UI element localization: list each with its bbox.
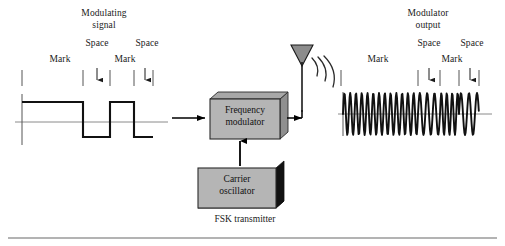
transmit-antenna — [291, 45, 334, 112]
modulating-signal-title-line1: Modulating — [81, 8, 126, 19]
left-label-space-2: Space — [135, 38, 158, 49]
carrier-oscillator-label-line1: Carrier — [224, 174, 251, 186]
modulating-square-wave — [22, 102, 153, 137]
left-space-arrows — [97, 68, 145, 80]
left-label-space-1: Space — [85, 38, 108, 49]
left-label-mark-1: Mark — [50, 54, 71, 65]
modulating-signal-title-line2: signal — [92, 20, 115, 31]
right-label-mark-1: Mark — [368, 54, 389, 65]
figure-caption: FSK transmitter — [215, 214, 276, 224]
modulator-output-title-line2: output — [416, 20, 441, 31]
left-waveform-group — [15, 68, 168, 145]
right-tick-marks — [341, 70, 479, 86]
frequency-modulator-label-line2: modulator — [225, 117, 264, 129]
right-label-space-1: Space — [417, 38, 440, 49]
right-waveform-group — [338, 68, 492, 136]
fm-block-right-face — [280, 92, 288, 139]
modulator-output-title-line1: Modulator — [407, 8, 448, 19]
carrier-oscillator-label-line2: oscillator — [219, 186, 254, 198]
left-label-mark-2: Mark — [115, 54, 136, 65]
fm-block-top-face — [210, 92, 288, 99]
right-label-mark-2: Mark — [442, 54, 463, 65]
right-label-space-2: Space — [460, 38, 483, 49]
frequency-modulator-label-line1: Frequency — [225, 105, 265, 117]
right-space-arrows — [429, 68, 470, 80]
antenna-radiation-arcs — [312, 56, 334, 87]
left-tick-marks — [22, 70, 153, 86]
fsk-transmitter-diagram: Modulating signal Mark Space Mark Space … — [0, 0, 505, 246]
modulator-output-path — [287, 110, 302, 118]
